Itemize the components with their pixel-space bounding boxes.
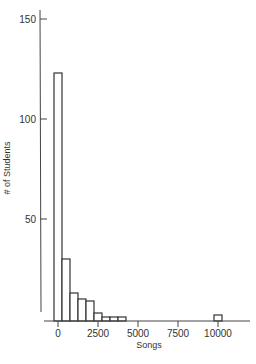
histogram-bar xyxy=(94,313,102,321)
y-axis-ticks: 50100150 xyxy=(19,14,47,225)
y-tick-label: 150 xyxy=(19,14,36,25)
x-axis-label: Songs xyxy=(136,340,162,350)
y-tick-label: 100 xyxy=(19,114,36,125)
x-tick-label: 5000 xyxy=(127,328,150,339)
y-tick-label: 50 xyxy=(25,214,37,225)
histogram-bar xyxy=(102,317,110,321)
histogram-bar xyxy=(62,259,70,321)
histogram-bar xyxy=(78,299,86,321)
histogram-bars xyxy=(54,73,222,321)
x-tick-label: 10000 xyxy=(204,328,232,339)
histogram-chart: 50100150 025005000750010000 Songs # of S… xyxy=(0,0,256,364)
histogram-bar xyxy=(70,293,78,321)
x-tick-label: 0 xyxy=(55,328,61,339)
histogram-bar xyxy=(214,315,222,321)
y-axis-label: # of Students xyxy=(2,141,12,195)
x-tick-label: 7500 xyxy=(167,328,190,339)
histogram-bar xyxy=(110,317,118,321)
x-tick-label: 2500 xyxy=(87,328,110,339)
x-axis-ticks: 025005000750010000 xyxy=(55,321,232,339)
histogram-bar xyxy=(54,73,62,321)
y-axis-line xyxy=(40,10,41,312)
histogram-bar xyxy=(86,301,94,321)
histogram-bar xyxy=(118,317,126,321)
